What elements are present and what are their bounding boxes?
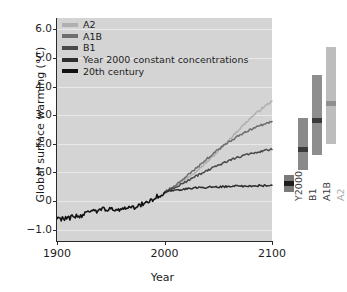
range-bar-b1 <box>298 118 308 170</box>
y-axis-tick-label: 5.0 <box>0 51 52 63</box>
legend-item: Year 2000 constant concentrations <box>62 54 248 66</box>
legend-swatch <box>62 34 78 38</box>
y-axis-tick-label: 0 <box>0 194 52 206</box>
y-axis-tick-label: 3.0 <box>0 108 52 120</box>
range-bar-label-a2: A2 <box>335 188 346 201</box>
y-axis-tick <box>53 201 57 202</box>
range-bar-label-y2000: Y2000 <box>293 171 304 201</box>
x-axis-tick <box>57 241 58 245</box>
y-axis-tick-label: 6.0 <box>0 22 52 34</box>
y-axis-tick <box>53 230 57 231</box>
series-line-a2 <box>165 101 273 192</box>
legend-swatch <box>62 69 78 73</box>
legend-label: B1 <box>83 42 96 53</box>
y-axis-tick-label: 1.0 <box>0 165 52 177</box>
y-axis-tick-label: 4.0 <box>0 80 52 92</box>
range-bar-label-b1: B1 <box>307 188 318 201</box>
legend-swatch <box>62 58 78 62</box>
x-axis-title: Year <box>55 271 270 284</box>
range-bar-a1b <box>312 75 322 155</box>
x-axis-tick-label: 2000 <box>140 247 190 260</box>
range-bar-panel: Y2000B1A1BA2 <box>276 18 347 241</box>
series-line-20th-century <box>57 192 165 221</box>
best-estimate-a1b <box>312 118 322 123</box>
best-estimate-a2 <box>326 101 336 106</box>
y-axis-tick <box>53 144 57 145</box>
legend-item: A1B <box>62 31 248 43</box>
climate-projection-figure: Global surface warming (°C) A2A1BB1Year … <box>0 0 347 292</box>
legend-label: 20th century <box>83 66 144 77</box>
series-line-a1b <box>165 121 273 192</box>
y-axis-tick <box>53 29 57 30</box>
x-axis-tick <box>165 241 166 245</box>
y-axis-tick-label: 2.0 <box>0 137 52 149</box>
y-axis-tick <box>53 58 57 59</box>
legend-label: A1B <box>83 31 102 42</box>
legend-item: B1 <box>62 42 248 54</box>
x-axis-tick-label: 2100 <box>247 247 297 260</box>
legend-item: A2 <box>62 19 248 31</box>
y-axis-tick <box>53 87 57 88</box>
y-axis-tick-label: −1.0 <box>0 223 52 235</box>
range-bar-label-a1b: A1B <box>321 182 332 201</box>
series-line-year-2000-constant-concentrations <box>165 185 273 193</box>
y-axis-tick <box>53 115 57 116</box>
y-axis-tick <box>53 172 57 173</box>
legend-item: 20th century <box>62 65 248 77</box>
range-bar-a2 <box>326 47 336 144</box>
legend-swatch <box>62 23 78 27</box>
legend: A2A1BB1Year 2000 constant concentrations… <box>62 19 248 77</box>
legend-swatch <box>62 46 78 50</box>
legend-label: Year 2000 constant concentrations <box>83 54 248 65</box>
y-axis-line <box>56 18 57 242</box>
legend-label: A2 <box>83 19 96 30</box>
x-axis-tick <box>272 241 273 245</box>
x-axis-tick-label: 1900 <box>32 247 82 260</box>
best-estimate-b1 <box>298 147 308 152</box>
